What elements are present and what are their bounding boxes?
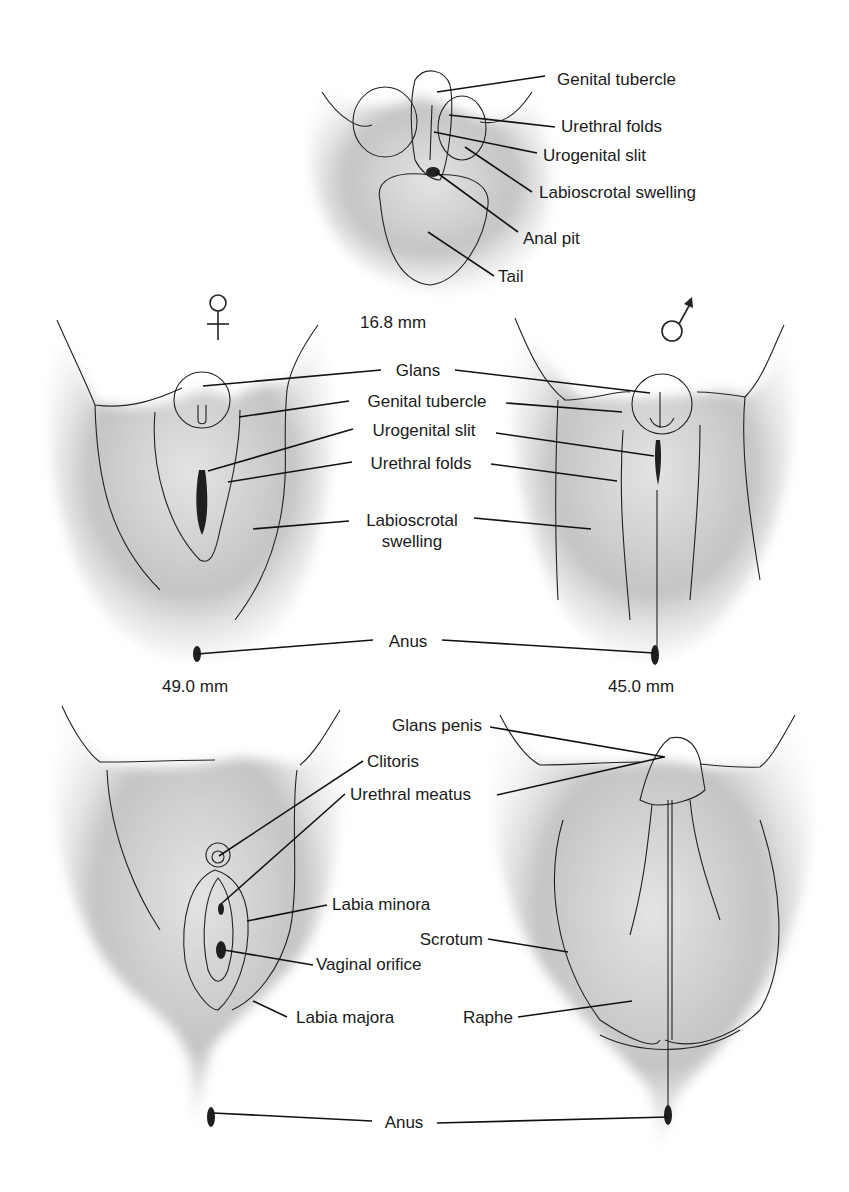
label-urethral-folds-middle: Urethral folds <box>370 454 471 473</box>
female-symbol-icon <box>207 295 229 340</box>
male-middle-illustration <box>512 318 793 665</box>
size-label-16-8mm: 16.8 mm <box>360 313 426 332</box>
female-bottom-illustration <box>55 705 342 1130</box>
male-symbol-icon <box>662 297 693 341</box>
size-label-45mm: 45.0 mm <box>608 677 674 696</box>
label-urethral-folds-top: Urethral folds <box>561 117 662 136</box>
label-labia-majora: Labia majora <box>296 1008 395 1027</box>
label-urogenital-slit-middle: Urogenital slit <box>373 421 476 440</box>
label-anal-pit: Anal pit <box>523 229 580 248</box>
size-label-49mm: 49.0 mm <box>162 677 228 696</box>
label-scrotum: Scrotum <box>420 930 483 949</box>
label-glans-penis: Glans penis <box>392 716 482 735</box>
label-labioscrotal-line2: swelling <box>382 532 442 551</box>
label-labioscrotal-swelling-top: Labioscrotal swelling <box>539 183 696 202</box>
label-clitoris: Clitoris <box>367 752 419 771</box>
label-tail: Tail <box>498 267 524 286</box>
label-glans: Glans <box>396 361 440 380</box>
label-urethral-meatus: Urethral meatus <box>350 785 471 804</box>
label-anus-bottom: Anus <box>385 1113 424 1132</box>
label-labia-minora: Labia minora <box>332 895 431 914</box>
label-anus-middle: Anus <box>389 632 428 651</box>
female-middle-illustration <box>50 320 332 662</box>
embryonic-genital-development-diagram: Genital tubercle Urethral folds Urogenit… <box>0 0 849 1192</box>
male-bottom-illustration <box>493 715 812 1150</box>
label-labioscrotal-line1: Labioscrotal <box>366 511 458 530</box>
label-raphe: Raphe <box>463 1008 513 1027</box>
label-vaginal-orifice: Vaginal orifice <box>316 955 422 974</box>
label-genital-tubercle-top: Genital tubercle <box>557 70 676 89</box>
label-genital-tubercle-middle: Genital tubercle <box>367 392 486 411</box>
label-urogenital-slit-top: Urogenital slit <box>543 146 646 165</box>
indifferent-stage-illustration <box>310 71 550 293</box>
